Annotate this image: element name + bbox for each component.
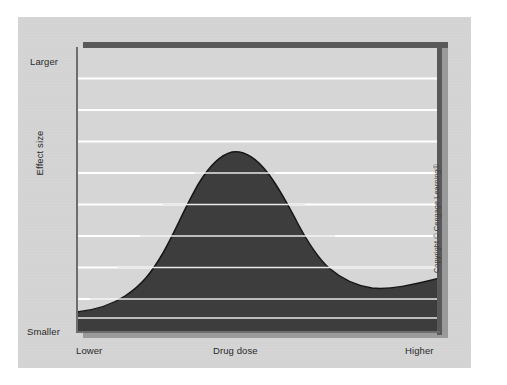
x-axis-tick-lower: Lower [76,345,102,356]
y-axis-tick-smaller: Smaller [27,326,60,337]
plot-top-rule [83,42,448,48]
y-axis-tick-larger: Larger [30,56,58,67]
figure-root: Larger Smaller Effect size Lower Drug do… [0,0,507,385]
copyright-credit: Copyright © Cengage Learning® [432,143,441,273]
y-axis-title: Effect size [34,113,45,193]
axis-left [76,47,78,333]
x-axis-title: Drug dose [213,345,258,356]
x-axis-tick-higher: Higher [405,345,434,356]
axis-bottom [77,331,440,333]
chart-plot [0,0,507,385]
